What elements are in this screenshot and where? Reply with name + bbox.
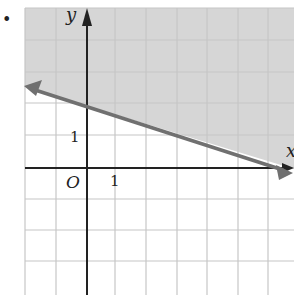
origin-label: O	[66, 172, 80, 192]
problem-bullet: •	[2, 10, 11, 29]
x-axis-label: x	[286, 140, 294, 161]
coordinate-plane	[0, 0, 294, 295]
y-axis-label: y	[66, 4, 76, 25]
y-tick-label: 1	[70, 128, 80, 146]
shaded-region	[25, 8, 294, 169]
x-tick-label: 1	[110, 172, 120, 190]
